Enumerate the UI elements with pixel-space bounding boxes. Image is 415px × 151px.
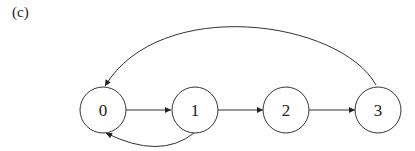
node-label: 2 — [282, 101, 291, 120]
node-label: 1 — [191, 101, 200, 120]
edge-1-to-0 — [106, 133, 194, 147]
node-label: 3 — [374, 101, 383, 120]
node-1: 1 — [172, 87, 218, 133]
edge-3-to-0 — [105, 27, 376, 86]
node-2: 2 — [263, 87, 309, 133]
node-label: 0 — [99, 101, 108, 120]
node-0: 0 — [80, 87, 126, 133]
state-diagram: 0 1 2 3 — [0, 0, 415, 151]
node-3: 3 — [355, 87, 401, 133]
